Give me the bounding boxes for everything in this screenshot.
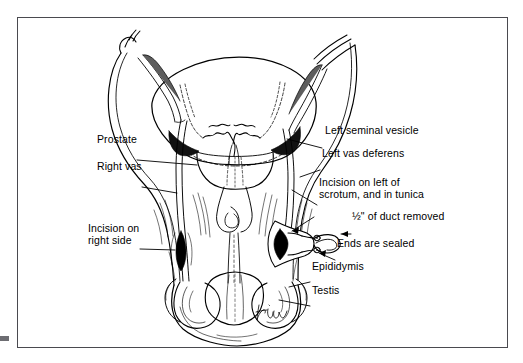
label-incision-right-line1: Incision on — [88, 222, 139, 235]
right-testis — [174, 282, 220, 328]
leader-lines — [137, 139, 351, 306]
leader-prostate — [137, 160, 197, 165]
label-epididymis: Epididymis — [312, 260, 364, 273]
anatomy-illustration — [17, 17, 508, 348]
right-incision — [171, 231, 192, 271]
left-seminal-vesicle — [289, 65, 327, 133]
page-edge-mark — [0, 336, 9, 341]
label-left-seminal-vesicle: Left seminal vesicle — [325, 124, 419, 137]
label-incision-left-line2: scrotum, and in tunica — [319, 188, 424, 201]
label-incision-left-line1: Incision on left of — [319, 176, 400, 189]
right-seminal-vesicle — [138, 55, 185, 123]
label-left-vas-deferens: Left vas deferens — [322, 147, 404, 160]
right-cord-top — [120, 30, 140, 53]
label-incision-right-line2: right side — [88, 234, 132, 247]
scrotum — [172, 285, 301, 346]
screenshot-canvas: Prostate Right vas Incision on right sid… — [0, 0, 523, 363]
left-incision — [268, 221, 314, 267]
leader-incision-left — [292, 217, 314, 231]
leader-left-vas — [300, 170, 320, 177]
label-duct-removed: ½" of duct removed — [352, 210, 445, 223]
prostate — [197, 152, 273, 189]
label-right-vas: Right vas — [97, 160, 142, 173]
penis-shaft — [205, 272, 263, 325]
leader-testis — [279, 300, 310, 306]
label-ends-sealed: Ends are sealed — [337, 237, 414, 250]
label-testis: Testis — [312, 284, 339, 297]
label-prostate: Prostate — [97, 133, 137, 146]
urethra-and-shaft — [217, 187, 253, 285]
